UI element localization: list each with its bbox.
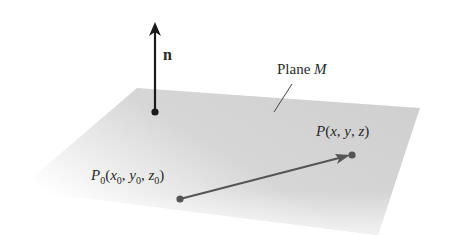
paren-close: ) — [159, 167, 164, 183]
point-p0-dot — [176, 195, 183, 202]
normal-vector-label: n — [163, 47, 172, 63]
point-p-name: P — [316, 123, 325, 139]
normal-base-point — [151, 108, 158, 115]
sep: , — [141, 167, 149, 183]
point-p-dot — [348, 151, 355, 158]
point-p-label: P(x, y, z) — [316, 124, 369, 139]
plane-diagram — [0, 0, 450, 235]
sep: , — [351, 123, 359, 139]
plane-label-prefix: Plane — [277, 61, 314, 77]
point-p0-x: x — [110, 167, 117, 183]
point-p0-label: P0(x0, y0, z0) — [91, 168, 164, 183]
point-p0-y: y — [129, 167, 136, 183]
plane-label: Plane M — [277, 62, 327, 77]
point-p-x: x — [330, 123, 337, 139]
point-p0-name: P — [91, 167, 100, 183]
plane-fade — [18, 88, 420, 235]
paren-close: ) — [364, 123, 369, 139]
plane-label-name: M — [314, 61, 327, 77]
point-p-y: y — [344, 123, 351, 139]
